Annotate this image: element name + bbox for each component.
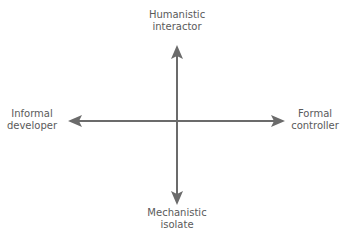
label-right-line2: controller: [286, 120, 344, 132]
label-top: Humanistic interactor: [127, 9, 227, 33]
label-bottom-line2: isolate: [127, 219, 227, 231]
label-bottom: Mechanistic isolate: [127, 207, 227, 231]
label-left-line2: developer: [2, 120, 62, 132]
quadrant-diagram: Humanistic interactor Mechanistic isolat…: [0, 0, 344, 237]
label-right-line1: Formal: [286, 108, 344, 120]
label-left-line1: Informal: [2, 108, 62, 120]
label-right: Formal controller: [286, 108, 344, 132]
label-top-line2: interactor: [127, 21, 227, 33]
label-bottom-line1: Mechanistic: [127, 207, 227, 219]
label-left: Informal developer: [2, 108, 62, 132]
label-top-line1: Humanistic: [127, 9, 227, 21]
